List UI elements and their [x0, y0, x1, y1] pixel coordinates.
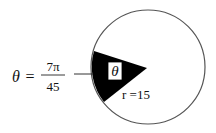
equation-lhs: θ — [12, 68, 20, 85]
sector-label: θ — [111, 63, 119, 79]
equation-equals: = — [25, 68, 34, 85]
equation-numerator: 7π — [46, 59, 60, 74]
radius-label: r =15 — [122, 87, 150, 102]
circle-sector-diagram: θ θ = 7π 45 r =15 — [0, 0, 216, 133]
equation-denominator: 45 — [47, 79, 60, 94]
